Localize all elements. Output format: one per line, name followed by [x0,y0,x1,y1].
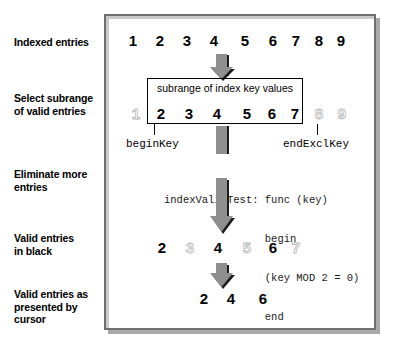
entry-number: 7 [289,31,303,51]
beginkey-label: beginKey [126,138,179,150]
flow-arrow-3 [204,178,240,240]
entry-number: 8 [312,31,326,51]
flow-arrow-2 [208,126,238,158]
entry-number-dim: 8 [312,104,326,124]
entry-number: 2 [154,104,168,124]
code-line-3: (key MOD 2 = 0) [164,272,359,285]
entry-number: 4 [207,31,221,51]
subrange-box-title: subrange of index key values [148,82,302,94]
valid-entries-black-row: 234567 [0,238,394,258]
entry-number: 5 [240,104,254,124]
beginkey-tick [154,124,155,135]
stage-label-eliminate-entries: Eliminate moreentries [14,168,106,193]
indexed-entries-row: 123456789 [0,31,394,51]
entry-number: 6 [265,104,279,124]
endexclkey-tick [317,124,318,135]
entry-number: 7 [288,104,302,124]
code-line-1: indexValidTest: func (key) [164,194,359,207]
entry-number: 2 [155,238,169,258]
entry-number: 6 [266,31,280,51]
entry-number: 1 [126,31,140,51]
entry-number: 4 [210,104,224,124]
entry-number: 6 [266,238,280,258]
entry-number: 9 [334,31,348,51]
entry-number: 4 [224,289,238,309]
entry-number: 5 [238,31,252,51]
entry-number-dim: 1 [129,104,143,124]
entry-number: 2 [197,289,211,309]
entry-number: 4 [211,238,225,258]
cursor-entries-row: 246 [0,289,394,309]
entry-number: 6 [256,289,270,309]
entry-number-dim: 7 [289,238,303,258]
entry-number: 3 [182,104,196,124]
entry-number: 3 [180,31,194,51]
entry-number-dim: 3 [183,238,197,258]
entry-number-dim: 9 [335,104,349,124]
entry-number: 2 [153,31,167,51]
endexclkey-label: endExclKey [283,138,349,150]
entry-number-dim: 5 [240,238,254,258]
code-line-4: end [164,311,359,324]
subrange-entries-row: 123456789 [0,104,394,124]
